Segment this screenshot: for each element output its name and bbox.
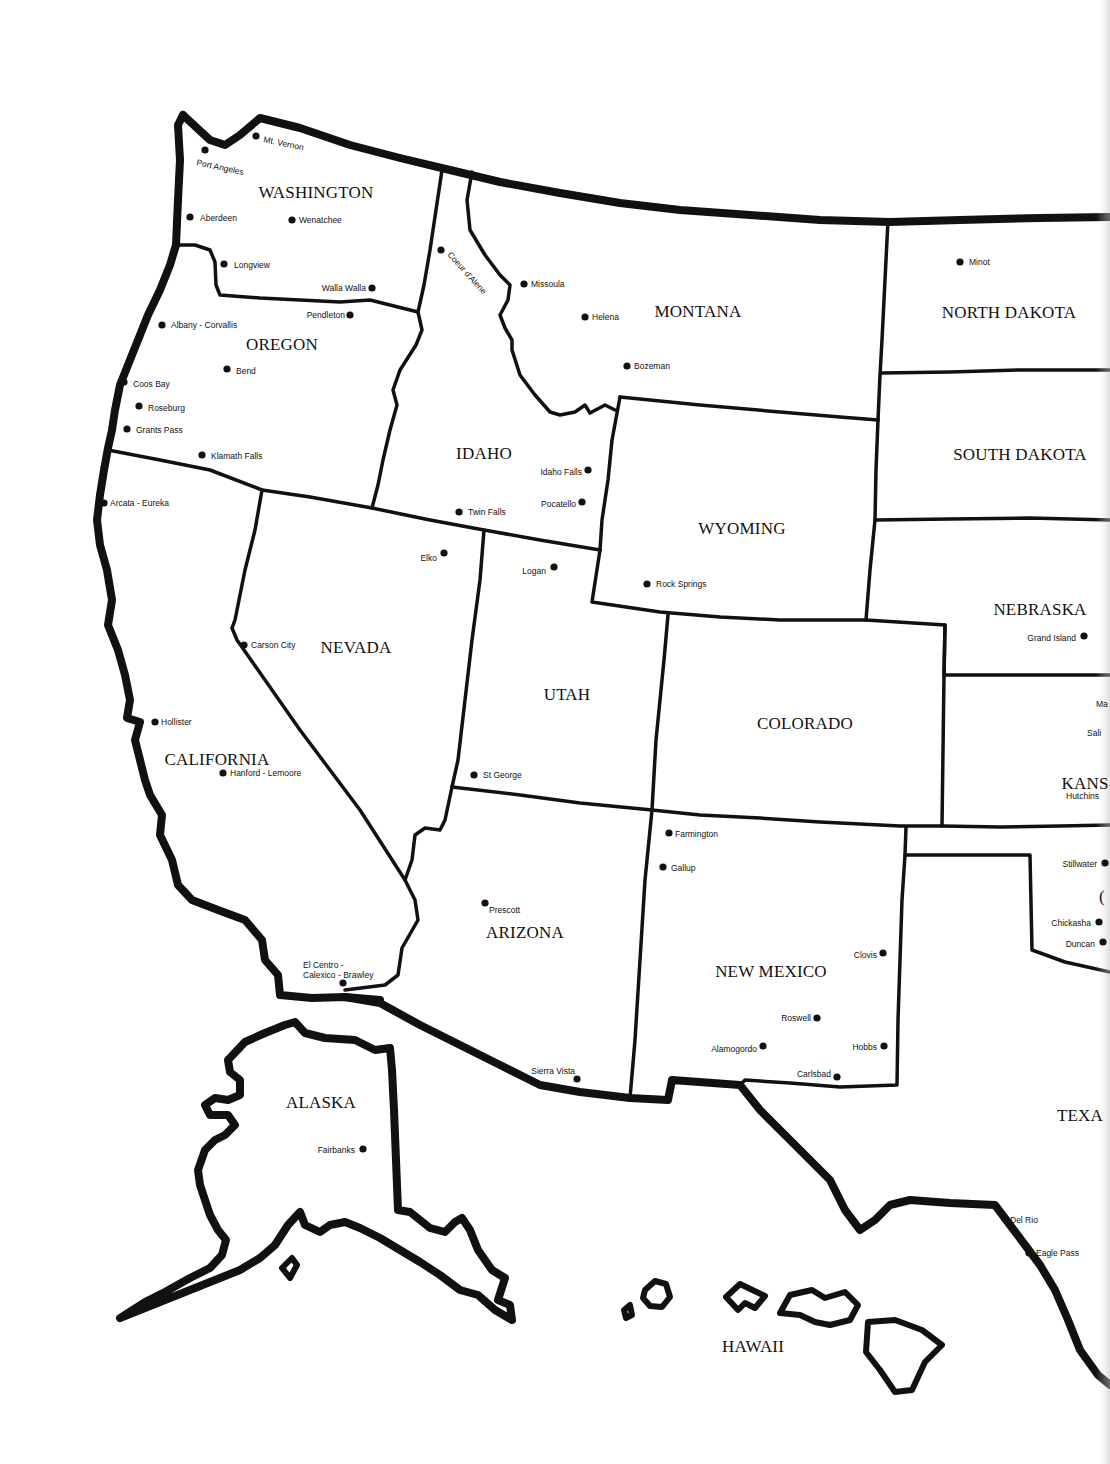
- city-label: Minot: [969, 257, 990, 267]
- city-label: Aberdeen: [200, 213, 237, 223]
- city-label: Logan: [522, 566, 546, 576]
- city-label: Hobbs: [852, 1042, 877, 1052]
- mexico-border: [345, 997, 1110, 1385]
- city-dot-icon: [833, 1073, 840, 1080]
- state-label-california: CALIFORNIA: [165, 750, 270, 769]
- city-label: Hanford - Lemoore: [230, 768, 302, 778]
- city-marker: Roseburg: [135, 402, 185, 413]
- city-label: Del Rio: [1010, 1215, 1038, 1225]
- city-label: Sierra Vista: [531, 1066, 575, 1076]
- city-markers: Mt. VernonPort AngelesAberdeenWenatcheeL…: [100, 132, 1108, 1258]
- kauai-island: [643, 1281, 670, 1307]
- city-dot-icon: [123, 425, 130, 432]
- nd-sd-border: [882, 370, 1110, 373]
- city-dot-icon: [151, 718, 158, 725]
- city-marker: Mt. Vernon: [252, 132, 305, 152]
- city-marker: Hutchins: [1066, 791, 1099, 801]
- city-dot-icon: [879, 949, 886, 956]
- state-label-texas: TEXA: [1057, 1106, 1104, 1125]
- maui-islands: [780, 1290, 858, 1325]
- city-dot-icon: [359, 1145, 366, 1152]
- state-label-south-dakota: SOUTH DAKOTA: [953, 445, 1087, 464]
- state-label-idaho: IDAHO: [456, 444, 512, 463]
- city-label: Missoula: [531, 279, 565, 289]
- city-marker: Fairbanks: [318, 1145, 367, 1155]
- city-dot-icon: [665, 829, 672, 836]
- city-label: Duncan: [1066, 939, 1096, 949]
- city-label: Clovis: [854, 950, 877, 960]
- az-nm-border: [630, 810, 652, 1098]
- city-label: Stillwater: [1063, 859, 1098, 869]
- city-label: Gallup: [671, 863, 696, 873]
- sd-ne-border: [875, 518, 1110, 520]
- city-marker: Bozeman: [623, 361, 670, 371]
- city-dot-icon: [288, 216, 295, 223]
- city-label: Wenatchee: [299, 215, 342, 225]
- state-label-washington: WASHINGTON: [258, 183, 373, 202]
- city-label: Roseburg: [148, 403, 185, 413]
- city-marker: Arcata - Eureka: [100, 498, 169, 508]
- city-dot-icon: [1095, 918, 1102, 925]
- city-marker: Twin Falls: [455, 507, 505, 517]
- city-label: Sali: [1087, 728, 1101, 738]
- city-label: Walla Walla: [322, 283, 367, 293]
- city-marker: Prescott: [481, 899, 520, 915]
- alaska-outline: [120, 1022, 512, 1320]
- city-marker: Hanford - Lemoore: [219, 768, 301, 778]
- city-marker: Wenatchee: [288, 215, 342, 225]
- city-dot-icon: [1001, 1215, 1008, 1222]
- city-dot-icon: [578, 498, 585, 505]
- mt-nd-border: [878, 220, 888, 420]
- city-label: Eagle Pass: [1036, 1248, 1079, 1258]
- city-label: Hutchins: [1066, 791, 1099, 801]
- state-labels: WASHINGTONOREGONMONTANANORTH DAKOTASOUTH…: [165, 183, 1109, 1356]
- city-marker: Port Angeles: [196, 146, 245, 177]
- mt-wy-border: [620, 397, 878, 420]
- hawaii-big-island: [866, 1320, 942, 1392]
- city-marker: Coos Bay: [120, 378, 170, 389]
- city-dot-icon: [481, 899, 488, 906]
- city-dot-icon: [201, 146, 208, 153]
- city-dot-icon: [252, 132, 259, 139]
- city-dot-icon: [198, 451, 205, 458]
- city-dot-icon: [623, 362, 630, 369]
- city-marker: Hobbs: [852, 1042, 887, 1052]
- city-label: St George: [483, 770, 522, 780]
- city-label: Roswell: [781, 1013, 811, 1023]
- city-label: Calexico - Brawley: [303, 970, 374, 980]
- city-dot-icon: [1099, 938, 1106, 945]
- ok-panhandle-border: [905, 827, 1110, 972]
- city-label: Twin Falls: [468, 507, 506, 517]
- pacific-coastline: [97, 115, 380, 1000]
- city-dot-icon: [440, 549, 447, 556]
- city-label: Chickasha: [1051, 918, 1091, 928]
- city-dot-icon: [643, 580, 650, 587]
- city-marker: Chickasha: [1051, 918, 1102, 928]
- city-marker: Coeur d'Alene: [437, 246, 489, 296]
- city-marker: Longview: [220, 260, 270, 270]
- city-dot-icon: [186, 213, 193, 220]
- city-label: Bend: [236, 366, 256, 376]
- state-label-alaska: ALASKA: [286, 1093, 357, 1112]
- ne-co-border: [866, 620, 1110, 675]
- city-dot-icon: [339, 979, 346, 986]
- wa-or-border: [176, 245, 418, 312]
- city-label: Pocatello: [541, 499, 576, 509]
- state-label-oklahoma: (: [1099, 887, 1105, 906]
- city-label: Ma: [1096, 699, 1108, 709]
- western-us-map: WASHINGTONOREGONMONTANANORTH DAKOTASOUTH…: [0, 0, 1110, 1464]
- city-marker: Carlsbad: [797, 1069, 841, 1081]
- city-dot-icon: [100, 499, 107, 506]
- city-dot-icon: [437, 246, 444, 253]
- city-dot-icon: [158, 321, 165, 328]
- city-marker: Minot: [956, 257, 990, 267]
- city-label: El Centro -: [303, 960, 344, 970]
- city-marker: Elko: [420, 549, 447, 563]
- state-label-hawaii: HAWAII: [722, 1337, 784, 1356]
- city-marker: Carson City: [240, 640, 296, 650]
- city-dot-icon: [120, 378, 127, 385]
- city-marker: Hollister: [151, 717, 191, 727]
- city-marker: Logan: [522, 563, 557, 576]
- city-marker: Gallup: [659, 863, 695, 873]
- alaska-island: [282, 1258, 297, 1278]
